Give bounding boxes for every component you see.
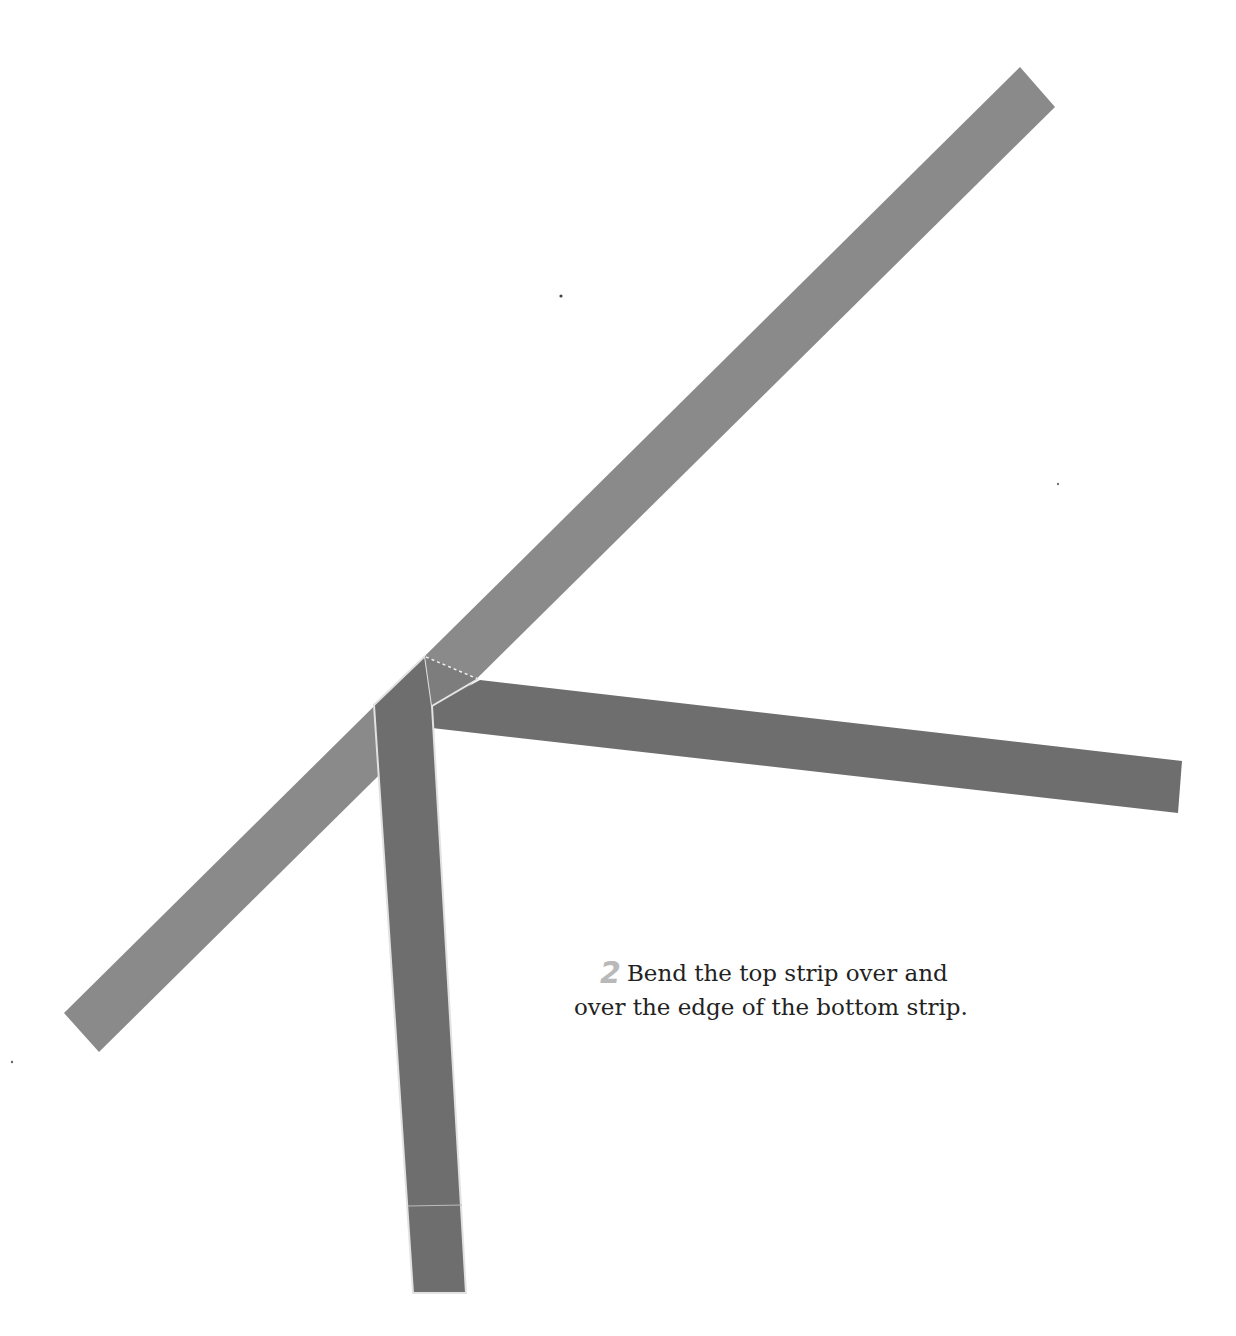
speck [559, 294, 562, 297]
diagonal-strip [64, 67, 1055, 1052]
vertical-strip [374, 656, 466, 1293]
folding-diagram [0, 0, 1236, 1336]
instruction-line-2: over the edge of the bottom strip. [574, 990, 1120, 1024]
speck [11, 1061, 13, 1063]
instruction-line-1: 2Bend the top strip over and [600, 956, 1120, 990]
speck [1057, 483, 1059, 485]
step-number: 2 [600, 955, 621, 990]
instruction-caption: 2Bend the top strip over and over the ed… [600, 956, 1120, 1024]
right-strip [432, 680, 1182, 813]
instruction-text-1: Bend the top strip over and [627, 960, 948, 986]
